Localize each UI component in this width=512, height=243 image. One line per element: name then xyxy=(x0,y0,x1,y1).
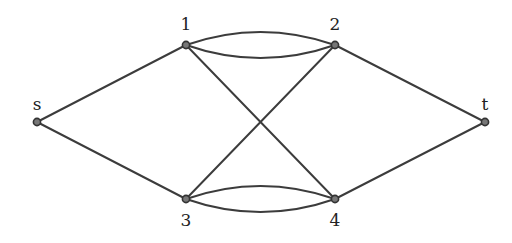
node-label-2: 2 xyxy=(330,14,341,34)
edge-1-2 xyxy=(186,45,335,58)
edge-3-4 xyxy=(186,186,335,199)
node-label-t: t xyxy=(482,94,489,114)
node-1 xyxy=(182,41,189,48)
edge-2-t xyxy=(335,45,485,122)
node-s xyxy=(33,118,40,125)
node-4 xyxy=(331,195,338,202)
node-2 xyxy=(331,41,338,48)
edge-1-2 xyxy=(186,32,335,45)
node-label-3: 3 xyxy=(181,210,192,230)
node-label-1: 1 xyxy=(181,14,192,34)
edge-s-3 xyxy=(37,122,186,199)
edge-s-1 xyxy=(37,45,186,122)
network-graph: s1234t xyxy=(0,0,512,243)
edge-4-t xyxy=(335,122,485,199)
edges-group xyxy=(37,32,485,212)
edge-3-4 xyxy=(186,199,335,212)
node-t xyxy=(481,118,488,125)
node-label-s: s xyxy=(33,94,42,114)
node-3 xyxy=(182,195,189,202)
node-label-4: 4 xyxy=(330,210,341,230)
